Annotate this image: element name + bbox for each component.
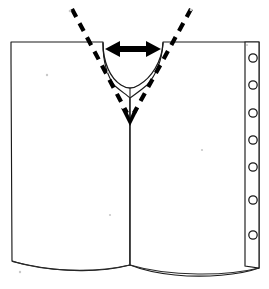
punch-hole-icon [249, 136, 257, 144]
scan-speck [107, 71, 109, 73]
punch-hole-icon [249, 231, 257, 239]
scan-speck [19, 271, 21, 273]
scan-speck [46, 74, 48, 76]
neckline-diagram [0, 0, 269, 289]
punch-hole-icon [249, 196, 257, 204]
scan-speck [246, 44, 248, 46]
scan-speck [69, 10, 72, 13]
punch-hole-icon [249, 81, 257, 89]
diagram-canvas [0, 0, 269, 289]
punch-hole-icon [249, 109, 257, 117]
punch-hole-icon [249, 54, 257, 62]
neck-width-double-arrow-icon [105, 41, 161, 57]
punch-hole-icon [249, 163, 257, 171]
scan-speck [201, 149, 203, 151]
scan-speck [190, 9, 193, 12]
scan-speck [109, 214, 111, 216]
